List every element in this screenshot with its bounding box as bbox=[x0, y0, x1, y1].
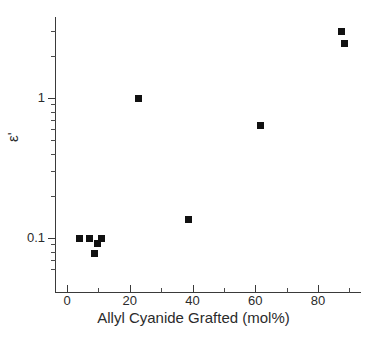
y-tick-minor bbox=[51, 56, 56, 57]
x-tick-minor bbox=[98, 288, 99, 293]
x-tick-major bbox=[318, 285, 319, 293]
y-tick-minor bbox=[51, 129, 56, 130]
data-point bbox=[76, 235, 83, 242]
data-point bbox=[91, 250, 98, 257]
y-tick-minor bbox=[51, 252, 56, 253]
y-tick-minor bbox=[51, 196, 56, 197]
chart-figure: 10.1 020406080 ε' Allyl Cyanide Grafted … bbox=[0, 0, 387, 339]
x-tick-major bbox=[193, 285, 194, 293]
y-tick-label: 0.1 bbox=[0, 231, 45, 244]
x-tick-major bbox=[130, 285, 131, 293]
x-tick-major bbox=[67, 285, 68, 293]
x-tick-major bbox=[255, 285, 256, 293]
x-tick-minor bbox=[349, 288, 350, 293]
data-point bbox=[98, 235, 105, 242]
y-tick-minor bbox=[51, 140, 56, 141]
y-tick-label: 1 bbox=[0, 91, 45, 104]
y-axis-title: ε' bbox=[4, 132, 21, 142]
y-tick-minor bbox=[51, 171, 56, 172]
data-point bbox=[86, 235, 93, 242]
y-tick-minor bbox=[51, 120, 56, 121]
x-tick-label: 80 bbox=[298, 294, 338, 308]
x-tick-label: 60 bbox=[235, 294, 275, 308]
x-tick-label: 20 bbox=[110, 294, 150, 308]
y-tick-minor bbox=[51, 104, 56, 105]
data-point bbox=[135, 95, 142, 102]
y-tick-major bbox=[48, 238, 56, 239]
y-tick-minor bbox=[51, 260, 56, 261]
data-point bbox=[338, 28, 345, 35]
data-point bbox=[341, 40, 348, 47]
y-tick-minor bbox=[51, 31, 56, 32]
x-tick-minor bbox=[287, 288, 288, 293]
x-tick-label: 40 bbox=[173, 294, 213, 308]
y-tick-minor bbox=[51, 112, 56, 113]
x-tick-label: 0 bbox=[47, 294, 87, 308]
y-tick-minor bbox=[51, 244, 56, 245]
x-axis-title: Allyl Cyanide Grafted (mol%) bbox=[0, 309, 387, 326]
y-tick-minor bbox=[51, 269, 56, 270]
y-tick-minor bbox=[51, 154, 56, 155]
y-tick-major bbox=[48, 98, 56, 99]
data-point bbox=[257, 122, 264, 129]
x-tick-minor bbox=[161, 288, 162, 293]
x-tick-minor bbox=[224, 288, 225, 293]
data-point bbox=[185, 216, 192, 223]
